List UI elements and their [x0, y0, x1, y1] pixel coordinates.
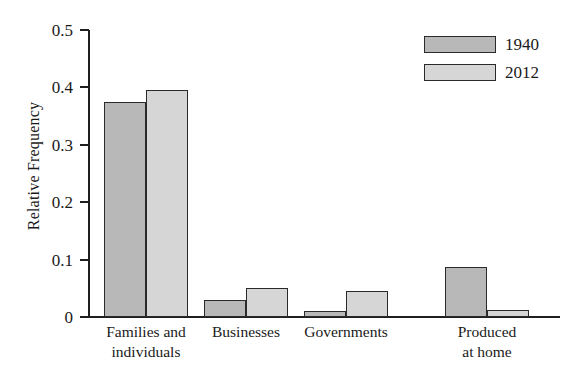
legend: 1940 2012 — [424, 33, 564, 89]
legend-swatch-1940 — [424, 36, 496, 53]
bar-1940-group-1 — [104, 102, 146, 317]
legend-swatch-2012 — [424, 64, 496, 81]
legend-item-1940[interactable]: 1940 — [424, 33, 564, 55]
legend-label-1940: 1940 — [505, 36, 539, 53]
y-axis-tick-label: 0.4 — [52, 79, 73, 96]
legend-item-2012[interactable]: 2012 — [424, 61, 564, 83]
y-axis-tick-label: 0.2 — [52, 194, 73, 211]
bar-2012-group-4 — [487, 310, 529, 317]
legend-label-2012: 2012 — [505, 64, 539, 81]
bar-chart: Relative Frequency 0.50.40.30.20.10 Fami… — [0, 0, 566, 382]
y-axis-tick-label: 0.1 — [52, 251, 73, 268]
bar-1940-group-3 — [304, 311, 346, 317]
y-axis-tick-label: 0.5 — [52, 22, 73, 39]
y-axis-tick-label: 0.3 — [52, 136, 73, 153]
bar-2012-group-1 — [146, 90, 188, 317]
bar-2012-group-2 — [246, 288, 288, 317]
bar-1940-group-4 — [445, 267, 487, 318]
bar-2012-group-3 — [346, 291, 388, 317]
y-axis-title: Relative Frequency — [25, 66, 43, 266]
x-axis-label-group-4: Produced at home — [412, 322, 562, 362]
bar-1940-group-2 — [204, 300, 246, 317]
x-axis-label-group-3: Governments — [271, 322, 421, 342]
